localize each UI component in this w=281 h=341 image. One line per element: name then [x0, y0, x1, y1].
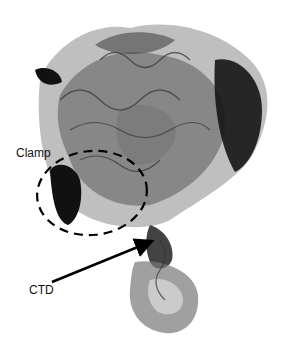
- clamp-label: Clamp: [16, 146, 51, 160]
- ctd-label: CTD: [29, 283, 54, 297]
- protein-main-body: [35, 25, 268, 334]
- figure-canvas: Clamp CTD: [0, 0, 281, 341]
